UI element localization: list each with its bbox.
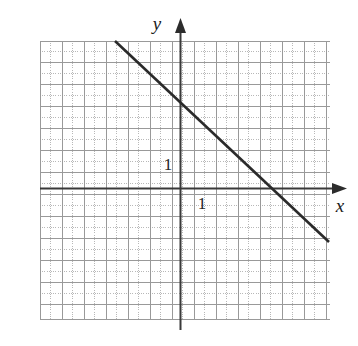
x-tick-label-one: 1 (198, 194, 207, 213)
graph-figure: y x 1 1 (0, 0, 358, 346)
y-axis-label: y (151, 13, 162, 34)
y-tick-label-one: 1 (164, 155, 173, 174)
coordinate-plane-svg: y x 1 1 (0, 0, 358, 346)
x-axis-label: x (335, 195, 345, 216)
